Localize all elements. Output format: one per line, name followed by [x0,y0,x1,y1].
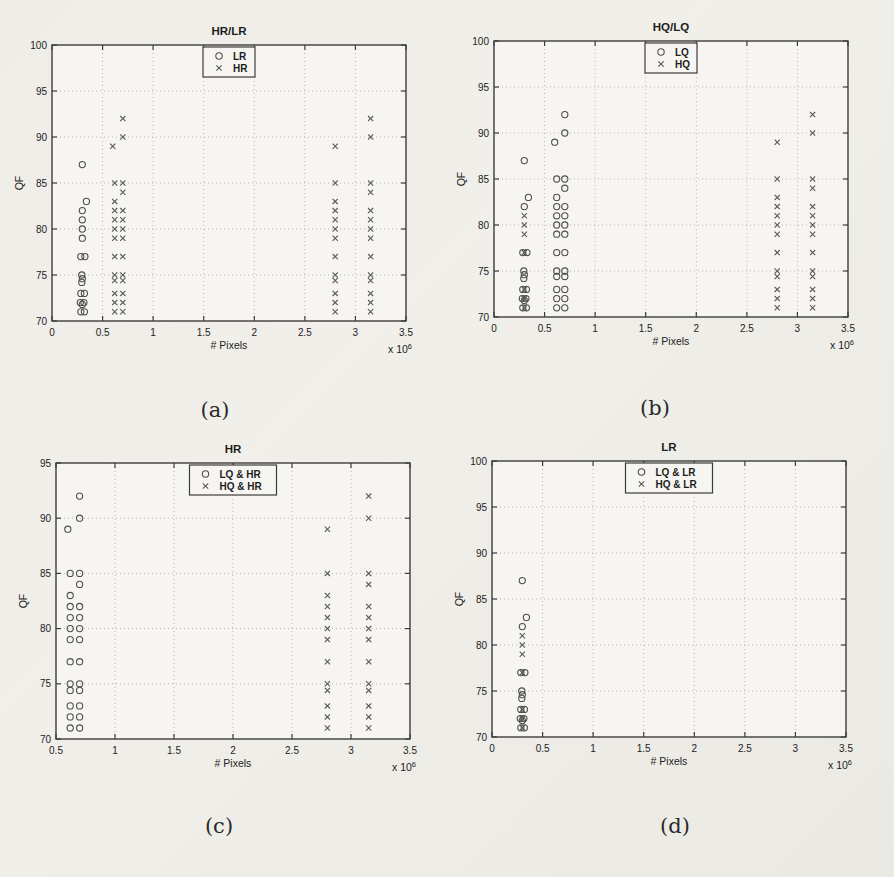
subfigure-d: 00.511.522.533.5707580859095100LR# Pixel… [450,424,880,774]
y-tick-label: 85 [478,174,490,185]
y-tick-label: 80 [478,220,490,231]
x-tick-label: 3 [348,745,354,756]
x-scale-label: x 106 [828,758,852,771]
x-tick-label: 1 [150,327,156,338]
legend-label: HR [233,63,248,74]
plot-area [56,463,410,739]
chart-hr-lr: 00.511.522.533.5707580859095100HR/LR# Pi… [10,8,440,358]
x-axis-label: # Pixels [211,339,248,351]
y-tick-label: 95 [476,502,488,513]
y-tick-label: 75 [40,678,52,689]
y-tick-label: 75 [36,270,48,281]
legend-label: HQ & HR [220,481,263,492]
x-tick-label: 2 [692,743,698,754]
y-tick-label: 90 [476,548,488,559]
y-tick-label: 70 [476,732,488,743]
chart-hq-lq: 00.511.522.533.5707580859095100HQ/LQ# Pi… [452,4,882,354]
legend-label: LQ & LR [656,467,697,478]
chart-hr: 0.511.522.533.5707580859095HR# PixelsQFx… [14,426,444,776]
x-tick-label: 1 [590,743,596,754]
legend-label: HQ & LR [656,479,698,490]
x-tick-label: 2.5 [298,327,312,338]
y-tick-label: 85 [40,568,52,579]
legend-label: HQ [675,59,690,70]
y-tick-label: 100 [470,456,487,467]
x-tick-label: 2.5 [738,743,752,754]
y-tick-label: 95 [478,82,490,93]
x-tick-label: 3.5 [399,327,413,338]
chart-title: HR [225,443,242,455]
subfigure-b: 00.511.522.533.5707580859095100HQ/LQ# Pi… [452,4,882,354]
x-tick-label: 1.5 [197,327,211,338]
x-tick-label: 2.5 [740,323,754,334]
x-scale-label: x 106 [392,760,416,773]
y-tick-label: 85 [476,594,488,605]
figure-panel: 00.511.522.533.5707580859095100HR/LR# Pi… [0,0,894,877]
y-tick-label: 85 [36,178,48,189]
y-tick-label: 70 [36,316,48,327]
y-tick-label: 90 [36,132,48,143]
x-tick-label: 3.5 [841,323,855,334]
legend-label: LR [233,51,247,62]
x-tick-label: 2 [230,745,236,756]
x-tick-label: 3.5 [403,745,417,756]
y-tick-label: 75 [476,686,488,697]
chart-title: LR [661,441,677,453]
x-axis-label: # Pixels [653,335,690,347]
x-tick-label: 1.5 [637,743,651,754]
x-tick-label: 0 [491,323,497,334]
y-tick-label: 80 [40,623,52,634]
y-tick-label: 80 [476,640,488,651]
x-tick-label: 0.5 [49,745,63,756]
legend-label: LQ [675,47,689,58]
x-tick-label: 2 [252,327,258,338]
y-tick-label: 95 [40,458,52,469]
subfigure-c-caption: (c) [4,814,434,838]
x-tick-label: 0 [49,327,55,338]
legend-label: LQ & HR [220,469,262,480]
y-tick-label: 80 [36,224,48,235]
x-tick-label: 3.5 [839,743,853,754]
x-tick-label: 2.5 [285,745,299,756]
y-tick-label: 100 [472,36,489,47]
subfigure-c: 0.511.522.533.5707580859095HR# PixelsQFx… [14,426,444,776]
x-tick-label: 0.5 [538,323,552,334]
subfigure-a-caption: (a) [0,398,430,422]
y-tick-label: 90 [478,128,490,139]
x-axis-label: # Pixels [651,755,688,767]
chart-lr: 00.511.522.533.5707580859095100LR# Pixel… [450,424,880,774]
x-tick-label: 2 [694,323,700,334]
y-tick-label: 95 [36,86,48,97]
chart-title: HQ/LQ [653,21,689,33]
chart-title: HR/LR [211,25,247,37]
x-scale-label: x 106 [830,338,854,351]
x-tick-label: 1.5 [639,323,653,334]
y-axis-label: QF [453,592,465,607]
y-axis-label: QF [455,172,467,187]
x-tick-label: 3 [793,743,799,754]
y-axis-label: QF [17,594,29,609]
subfigure-b-caption: (b) [440,396,870,420]
x-tick-label: 0.5 [536,743,550,754]
x-tick-label: 0 [489,743,495,754]
x-tick-label: 3 [353,327,359,338]
y-tick-label: 100 [30,40,47,51]
x-tick-label: 3 [795,323,801,334]
x-tick-label: 1 [592,323,598,334]
y-tick-label: 70 [478,312,490,323]
x-tick-label: 0.5 [96,327,110,338]
y-tick-label: 70 [40,734,52,745]
y-axis-label: QF [13,176,25,191]
x-axis-label: # Pixels [215,757,252,769]
x-tick-label: 1.5 [167,745,181,756]
y-tick-label: 90 [40,513,52,524]
subfigure-d-caption: (d) [460,814,890,838]
x-tick-label: 1 [112,745,118,756]
subfigure-a: 00.511.522.533.5707580859095100HR/LR# Pi… [10,8,440,358]
y-tick-label: 75 [478,266,490,277]
x-scale-label: x 106 [388,342,412,355]
